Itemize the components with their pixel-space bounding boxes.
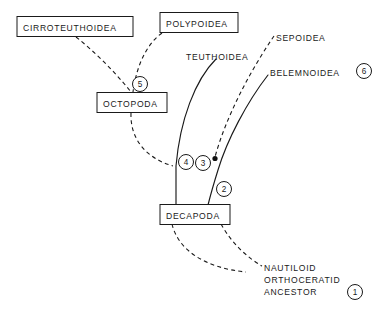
taxon-box-polypoidea-label: POLYPOIDEA	[166, 19, 228, 29]
taxon-label-belemnoidea: BELEMNOIDEA	[270, 68, 340, 78]
taxon-box-polypoidea[interactable]: POLYPOIDEA	[160, 13, 238, 33]
ancestor-label-line3: ANCESTOR	[264, 287, 317, 297]
branch-octopoda-to-node4	[131, 113, 173, 166]
node-marker-4-number: 4	[184, 158, 189, 167]
ancestor-label-line1: NAUTILOID	[264, 263, 316, 273]
taxon-box-octopoda[interactable]: OCTOPODA	[97, 93, 167, 113]
node-marker-5-number: 5	[138, 80, 143, 89]
cladogram-canvas: CIRROTEUTHOIDEA POLYPOIDEA OCTOPODA DECA…	[0, 0, 389, 318]
node-marker-6[interactable]: 6	[357, 64, 372, 79]
taxon-box-octopoda-label: OCTOPODA	[103, 99, 158, 109]
node-marker-2-number: 2	[222, 185, 227, 194]
node-marker-3-number: 3	[201, 159, 206, 168]
node-marker-4[interactable]: 4	[179, 155, 194, 170]
node-marker-5[interactable]: 5	[133, 77, 148, 92]
branch-cirroteuthoidea-to-octopoda	[76, 37, 131, 92]
cladogram-figure: CIRROTEUTHOIDEA POLYPOIDEA OCTOPODA DECA…	[0, 0, 389, 318]
node-marker-6-number: 6	[362, 67, 367, 76]
branch-decapoda-to-ancestor-left	[172, 224, 246, 272]
node-marker-1[interactable]: 1	[348, 285, 363, 300]
node-marker-2[interactable]: 2	[217, 182, 232, 197]
node-marker-1-number: 1	[353, 288, 358, 297]
branch-teuthoidea-to-decapoda	[176, 59, 216, 205]
branch-decapoda-to-ancestor-right	[221, 224, 262, 266]
ancestor-label-line2: ORTHOCERATID	[264, 275, 340, 285]
ancestor-label-group: NAUTILOID ORTHOCERATID ANCESTOR	[264, 263, 340, 297]
taxon-box-decapoda-label: DECAPODA	[166, 211, 220, 221]
taxon-label-sepoidea: SEPOIDEA	[276, 33, 326, 43]
taxon-box-cirroteuthoidea[interactable]: CIRROTEUTHOIDEA	[17, 17, 133, 37]
taxon-box-cirroteuthoidea-label: CIRROTEUTHOIDEA	[23, 23, 117, 33]
node3-junction-dot	[212, 156, 217, 161]
node-marker-3[interactable]: 3	[196, 156, 211, 171]
taxon-label-teuthoidea: TEUTHOIDEA	[186, 52, 248, 62]
taxon-box-decapoda[interactable]: DECAPODA	[160, 205, 230, 225]
